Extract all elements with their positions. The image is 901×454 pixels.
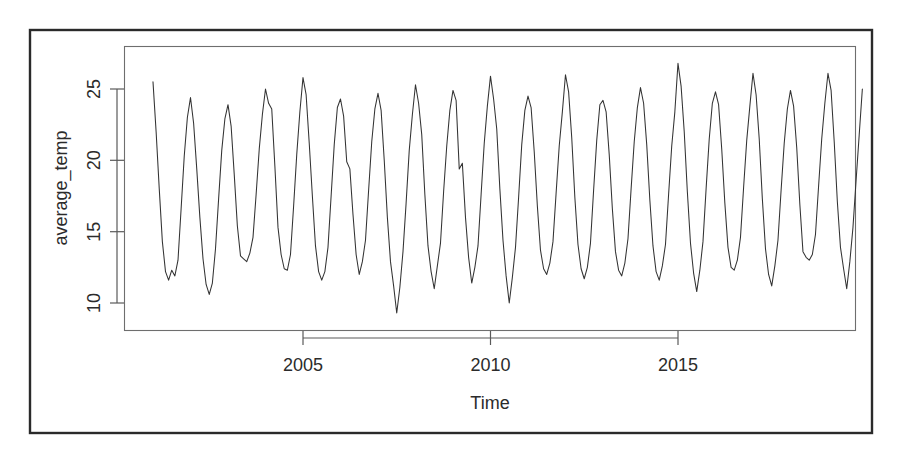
figure-background	[0, 0, 901, 454]
x-tick-label-2005: 2005	[283, 355, 323, 375]
y-tick-label-25: 25	[84, 79, 104, 99]
x-tick-label-2010: 2010	[470, 355, 510, 375]
x-tick-label-2015: 2015	[658, 355, 698, 375]
y-axis-title: average_temp	[51, 130, 72, 245]
time-series-chart: 25 20 15 10 average_temp 2005 2010 2015 …	[0, 0, 901, 454]
y-tick-label-15: 15	[84, 222, 104, 242]
y-tick-label-20: 20	[84, 150, 104, 170]
y-tick-label-10: 10	[84, 293, 104, 313]
x-axis-title: Time	[470, 393, 509, 413]
